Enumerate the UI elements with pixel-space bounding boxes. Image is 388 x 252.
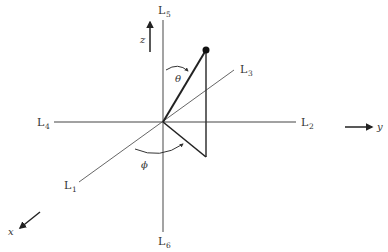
position-vector	[163, 50, 206, 122]
phi-arc	[135, 144, 183, 153]
point-marker	[203, 47, 210, 54]
svg-text:5: 5	[166, 10, 171, 19]
label-L4: L 4	[37, 116, 50, 131]
theta-arc	[166, 66, 188, 71]
y-label: y	[376, 121, 383, 132]
x-label: x	[8, 226, 14, 237]
svg-text:L: L	[301, 116, 309, 129]
theta-label: θ	[175, 73, 181, 84]
horizontal-projection-line	[163, 122, 206, 157]
label-L3: L 3	[240, 63, 253, 78]
svg-text:3: 3	[248, 69, 253, 78]
svg-text:L: L	[240, 63, 248, 76]
spherical-coordinates-diagram: θ ϕ z y x L 5 L 6 L 4 L 2 L 3 L 1	[0, 0, 388, 252]
label-L2: L 2	[301, 116, 314, 131]
svg-text:6: 6	[166, 241, 171, 250]
svg-text:1: 1	[72, 185, 77, 194]
phi-label: ϕ	[141, 159, 148, 170]
x-direction-arrow	[20, 212, 40, 228]
svg-text:L: L	[158, 235, 166, 248]
label-L1: L 1	[64, 179, 77, 194]
z-label: z	[139, 34, 146, 45]
label-L6: L 6	[158, 235, 171, 250]
label-L5: L 5	[158, 4, 171, 19]
axis-line-L1-L3	[79, 70, 234, 182]
svg-text:L: L	[37, 116, 45, 129]
svg-text:2: 2	[309, 122, 314, 131]
svg-text:L: L	[158, 4, 166, 17]
svg-text:L: L	[64, 179, 72, 192]
svg-text:4: 4	[45, 122, 50, 131]
